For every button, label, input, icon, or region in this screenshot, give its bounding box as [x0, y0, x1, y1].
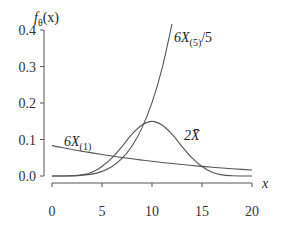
x-axis-label: x: [261, 176, 269, 191]
y-tick-label: 0.3: [19, 60, 37, 75]
y-tick-label: 0.4: [19, 23, 37, 38]
chart: 0.00.10.20.30.405101520 fθ(x) x 6X(1) 6X…: [0, 0, 285, 231]
label-2xbar: 2X̄: [184, 128, 200, 143]
x-tick-label: 0: [49, 204, 56, 219]
axes: 0.00.10.20.30.405101520: [19, 23, 260, 219]
x-tick-label: 10: [145, 204, 159, 219]
x-tick-label: 5: [99, 204, 106, 219]
label-6x5-over-5: 6X(5)/5: [174, 30, 212, 49]
y-tick-label: 0.0: [19, 169, 37, 184]
y-tick-label: 0.1: [19, 133, 37, 148]
x-tick-label: 20: [245, 204, 259, 219]
x-tick-label: 15: [195, 204, 209, 219]
y-tick-label: 0.2: [19, 96, 37, 111]
curves: [52, 24, 252, 176]
curve-series-1: [52, 24, 172, 176]
y-axis-label: fθ(x): [34, 10, 59, 28]
